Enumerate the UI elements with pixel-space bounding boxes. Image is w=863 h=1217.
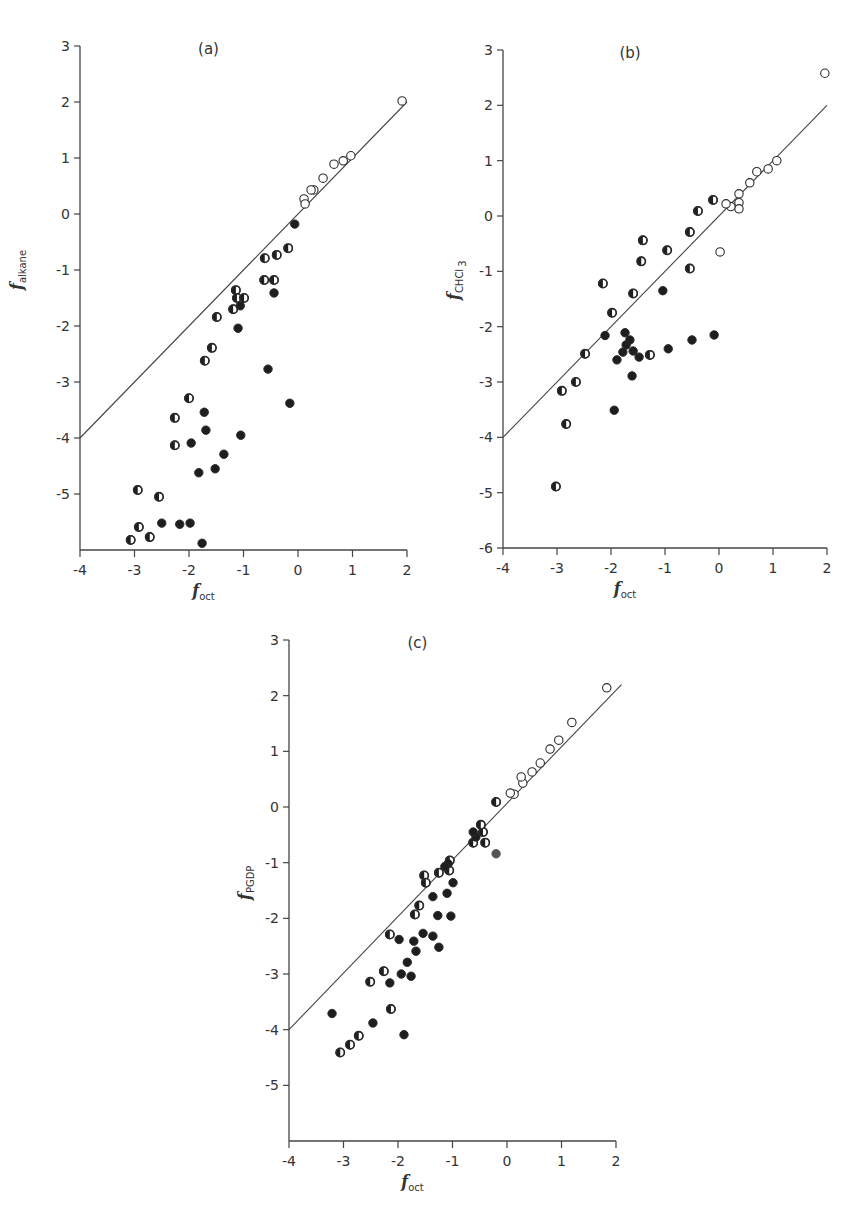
half-circle-marker: [336, 1048, 344, 1056]
y-tick-label: -4: [479, 429, 493, 445]
filled-circle-marker: [659, 287, 667, 295]
x-tick-label: 0: [503, 1153, 512, 1169]
half-circle-marker: [477, 821, 485, 829]
x-axis-label: foct: [613, 579, 637, 600]
half-circle-marker: [572, 378, 580, 386]
y-tick-label: -1: [479, 263, 493, 279]
y-tick-label: 1: [484, 153, 493, 169]
x-axis-label: foct: [400, 1172, 424, 1193]
half-circle-marker: [213, 313, 221, 321]
reference-line: [289, 685, 621, 1030]
x-tick-label: -1: [237, 562, 251, 578]
half-circle-marker: [273, 251, 281, 259]
x-tick-label: -1: [446, 1153, 460, 1169]
filled-circle-marker: [447, 912, 455, 920]
x-tick-label: 0: [294, 562, 303, 578]
open-circle-marker: [307, 186, 315, 194]
half-circle-marker: [155, 493, 163, 501]
half-circle-marker: [366, 978, 374, 986]
series-filled: [328, 828, 480, 1039]
y-tick-label: 3: [484, 42, 493, 58]
filled-circle-marker: [443, 889, 451, 897]
half-circle-marker: [646, 351, 654, 359]
half-circle-marker: [629, 289, 637, 297]
x-tick-label: 1: [557, 1153, 566, 1169]
y-tick-label: 2: [270, 688, 279, 704]
chart-panel-c: 3210-1-2-3-4-5-4-3-2-1012(c)foctfPGDP: [235, 632, 621, 1193]
filled-circle-marker: [400, 1030, 408, 1038]
open-circle-marker: [555, 736, 563, 744]
half-circle-marker: [380, 967, 388, 975]
chart-panel-b: 3210-1-2-3-4-5-6-4-3-2-1012(b)foctfCHCl3: [444, 42, 831, 600]
y-tick-label: -4: [265, 1022, 279, 1038]
open-circle-marker: [319, 174, 327, 182]
filled-circle-marker: [211, 465, 219, 473]
half-circle-marker: [415, 901, 423, 909]
gray-circle-marker: [492, 850, 500, 858]
panel-title: (c): [408, 634, 428, 652]
x-tick-label: 1: [348, 562, 357, 578]
filled-circle-marker: [429, 932, 437, 940]
y-axis-label: fPGDP: [235, 866, 256, 901]
half-circle-marker: [663, 246, 671, 254]
x-tick-label: -2: [182, 562, 196, 578]
open-circle-marker: [746, 179, 754, 187]
half-circle-marker: [581, 350, 589, 358]
panel-title: (b): [619, 44, 640, 62]
half-circle-marker: [171, 441, 179, 449]
half-circle-marker: [201, 357, 209, 365]
half-circle-marker: [552, 482, 560, 490]
half-circle-marker: [208, 344, 216, 352]
filled-circle-marker: [412, 947, 420, 955]
y-axis-label: fCHCl3: [444, 260, 468, 301]
y-tick-label: -1: [265, 855, 279, 871]
filled-circle-marker: [601, 331, 609, 339]
half-circle-marker: [146, 533, 154, 541]
half-circle-marker: [270, 276, 278, 284]
open-circle-marker: [764, 165, 772, 173]
reference-line: [80, 102, 407, 438]
y-tick-label: -5: [56, 486, 70, 502]
y-tick-label: -2: [56, 318, 70, 334]
open-circle-marker: [517, 773, 525, 781]
x-axis-label: foct: [191, 581, 215, 602]
half-circle-marker: [240, 294, 248, 302]
filled-circle-marker: [195, 469, 203, 477]
x-tick-label: -4: [282, 1153, 296, 1169]
half-circle-marker: [686, 264, 694, 272]
half-circle-marker: [686, 228, 694, 236]
reference-line: [503, 105, 827, 437]
series-open: [716, 69, 829, 256]
x-tick-label: 2: [823, 560, 832, 576]
y-tick-label: -3: [265, 966, 279, 982]
filled-circle-marker: [395, 935, 403, 943]
y-tick-label: -2: [479, 319, 493, 335]
filled-circle-marker: [286, 399, 294, 407]
series-gray: [492, 850, 500, 858]
x-tick-label: -2: [604, 560, 618, 576]
x-tick-label: -3: [550, 560, 564, 576]
half-circle-marker: [386, 930, 394, 938]
y-tick-label: -3: [56, 374, 70, 390]
half-circle-marker: [481, 838, 489, 846]
half-circle-marker: [558, 387, 566, 395]
half-circle-marker: [387, 1005, 395, 1013]
half-circle-marker: [171, 414, 179, 422]
filled-circle-marker: [237, 431, 245, 439]
filled-circle-marker: [613, 356, 621, 364]
x-tick-label: 1: [769, 560, 778, 576]
filled-circle-marker: [176, 520, 184, 528]
half-circle-marker: [232, 286, 240, 294]
open-circle-marker: [536, 759, 544, 767]
filled-circle-marker: [291, 220, 299, 228]
filled-circle-marker: [449, 879, 457, 887]
filled-circle-marker: [236, 302, 244, 310]
half-circle-marker: [346, 1040, 354, 1048]
filled-circle-marker: [619, 348, 627, 356]
y-tick-label: 3: [61, 38, 70, 54]
filled-circle-marker: [710, 331, 718, 339]
half-circle-marker: [355, 1032, 363, 1040]
open-circle-marker: [330, 160, 338, 168]
x-tick-label: 0: [715, 560, 724, 576]
open-circle-marker: [398, 97, 406, 105]
